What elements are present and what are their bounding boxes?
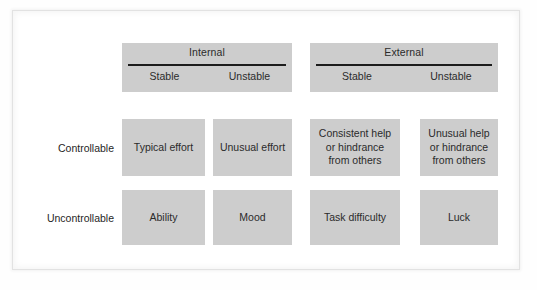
cell-controllable-external-stable: Consistent help or hindrance from others: [310, 119, 400, 176]
attribution-matrix-figure: Internal Stable Unstable External Stable…: [0, 0, 537, 290]
subcolumn-labels-internal: Stable Unstable: [122, 70, 292, 82]
header-divider-rule-external: [316, 64, 492, 66]
cell-uncontrollable-internal-stable: Ability: [122, 190, 205, 245]
cell-uncontrollable-external-unstable: Luck: [420, 190, 498, 245]
column-group-title-internal: Internal: [122, 46, 292, 58]
subcolumn-label-external-unstable: Unstable: [404, 70, 498, 82]
cell-controllable-internal-stable: Typical effort: [122, 119, 205, 176]
cell-uncontrollable-internal-unstable: Mood: [213, 190, 292, 245]
subcolumn-label-external-stable: Stable: [310, 70, 404, 82]
subcolumn-labels-external: Stable Unstable: [310, 70, 498, 82]
column-group-header-internal: Internal Stable Unstable: [122, 43, 292, 92]
subcolumn-label-internal-stable: Stable: [122, 70, 207, 82]
cell-uncontrollable-external-stable: Task difficulty: [310, 190, 400, 245]
column-group-header-external: External Stable Unstable: [310, 43, 498, 92]
header-divider-rule-internal: [128, 64, 286, 66]
row-label-controllable: Controllable: [8, 142, 114, 154]
cell-controllable-internal-unstable: Unusual effort: [213, 119, 292, 176]
subcolumn-label-internal-unstable: Unstable: [207, 70, 292, 82]
row-label-uncontrollable: Uncontrollable: [8, 212, 114, 224]
column-group-title-external: External: [310, 46, 498, 58]
cell-controllable-external-unstable: Unusual help or hindrance from others: [420, 119, 498, 176]
